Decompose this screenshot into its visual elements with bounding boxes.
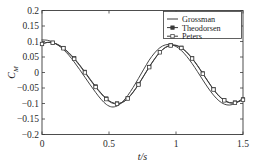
series-marker-peters <box>105 97 108 100</box>
series-marker-peters <box>233 101 236 104</box>
series-marker-peters <box>148 66 151 69</box>
series-marker-peters <box>62 47 65 50</box>
y-tick-label: −0.05 <box>17 83 39 93</box>
chart-svg: 0.20.150.10.050−0.05−0.1−0.15−0.2 00.511… <box>0 0 257 167</box>
series-marker-peters <box>212 88 215 91</box>
legend-label-peters: Peters <box>182 32 202 41</box>
series-marker-peters <box>94 85 97 88</box>
y-tick-label: −0.2 <box>22 130 39 140</box>
series-marker-peters <box>137 83 140 86</box>
series-marker-peters <box>223 99 226 102</box>
series-marker-peters <box>115 102 118 105</box>
series-marker-peters <box>126 97 129 100</box>
series-marker-peters <box>180 46 183 49</box>
x-axis-title: t/s <box>138 151 148 162</box>
y-tick-label: 0.1 <box>27 37 39 47</box>
series-marker-peters <box>169 44 172 47</box>
y-tick-label: 0.2 <box>27 6 39 16</box>
legend-marker-theodorsen <box>171 26 174 29</box>
y-tick-label: 0.15 <box>22 21 39 31</box>
legend-marker-peters <box>171 35 174 38</box>
series-marker-peters <box>241 98 244 101</box>
x-tick-label: 0.5 <box>103 139 115 149</box>
series-marker-peters <box>51 41 54 44</box>
chart-figure: 0.20.150.10.050−0.05−0.1−0.15−0.2 00.511… <box>0 0 257 167</box>
y-tick-label: −0.1 <box>22 99 39 109</box>
y-tick-label: 0.05 <box>22 52 39 62</box>
series-marker-peters <box>190 57 193 60</box>
x-tick-label: 1 <box>174 139 179 149</box>
y-tick-label: 0 <box>34 68 39 78</box>
y-tick-label: −0.15 <box>17 114 39 124</box>
chart-legend: GrossmanTheodorsenPeters <box>164 12 242 42</box>
series-marker-peters <box>72 57 75 60</box>
x-tick-label: 1.5 <box>237 139 249 149</box>
series-marker-peters <box>201 72 204 75</box>
series-marker-peters <box>40 42 43 45</box>
x-tick-label: 0 <box>40 139 45 149</box>
series-marker-peters <box>158 51 161 54</box>
series-marker-peters <box>83 71 86 74</box>
